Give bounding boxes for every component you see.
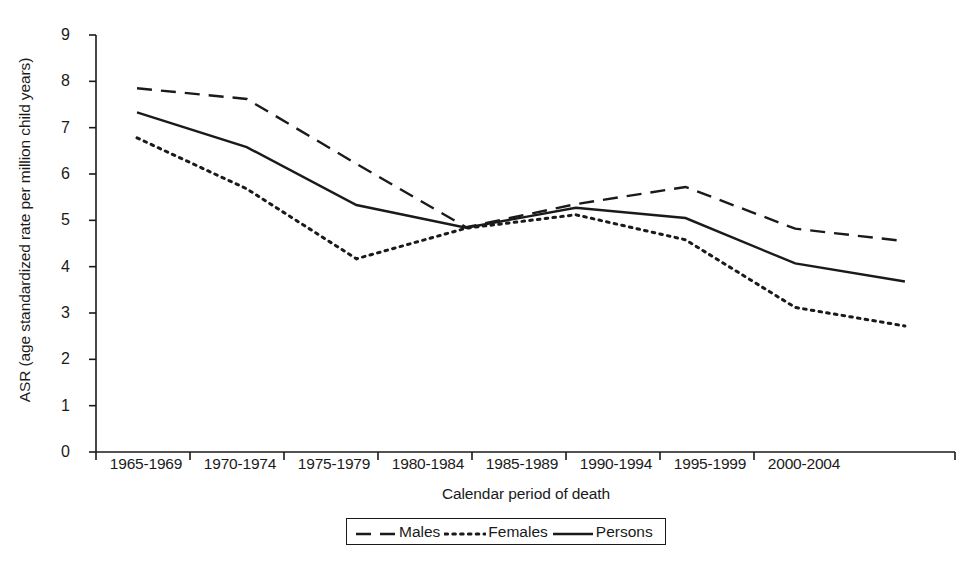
legend-label: Males <box>399 523 444 541</box>
legend-item-females: Females <box>444 523 551 541</box>
legend-swatch-dashed-icon <box>355 526 397 538</box>
x-tick-label: 1995-1999 <box>674 455 746 473</box>
chart-legend: MalesFemalesPersons <box>346 518 666 545</box>
x-tick-label: 1975-1979 <box>298 455 370 473</box>
legend-swatch-dotted-icon <box>444 526 486 538</box>
x-tick-label: 1985-1989 <box>486 455 558 473</box>
axis-lines <box>96 35 955 452</box>
x-tick-label: 2000-2004 <box>768 455 840 473</box>
x-tick-label: 1980-1984 <box>392 455 464 473</box>
x-tick-label: 1970-1974 <box>204 455 276 473</box>
legend-label: Persons <box>596 523 657 541</box>
series-line-persons <box>137 112 905 281</box>
series-line-females <box>137 138 905 326</box>
axis-ticks <box>89 35 955 460</box>
legend-item-males: Males <box>355 523 444 541</box>
x-axis-title: Calendar period of death <box>96 485 956 503</box>
legend-label: Females <box>488 523 551 541</box>
chart-container: ASR (age standardized rate per million c… <box>0 0 978 571</box>
legend-swatch-solid-icon <box>552 526 594 538</box>
legend-item-persons: Persons <box>552 523 657 541</box>
x-tick-label: 1990-1994 <box>580 455 652 473</box>
x-tick-label: 1965-1969 <box>110 455 182 473</box>
